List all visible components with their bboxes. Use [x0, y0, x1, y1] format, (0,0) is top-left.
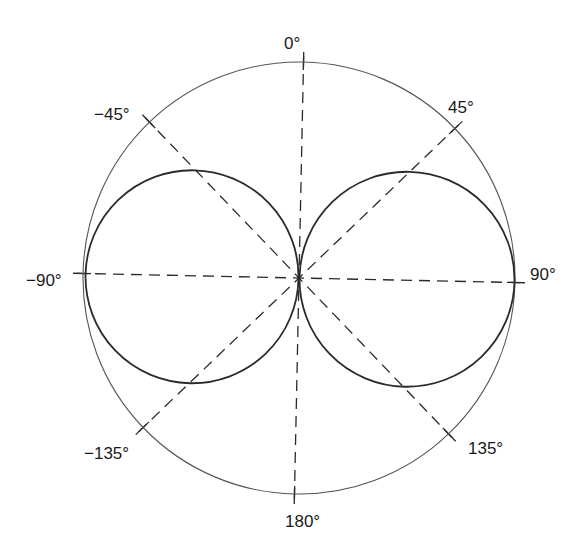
label-minus135: −135°	[84, 444, 129, 463]
left-lobe	[83, 168, 300, 385]
label-90: 90°	[530, 265, 556, 284]
label-minus45: −45°	[94, 105, 130, 124]
label-135: 135°	[468, 439, 503, 458]
label-0: 0°	[284, 34, 300, 53]
label-180: 180°	[285, 512, 320, 531]
label-minus90: −90°	[26, 271, 62, 290]
label-45: 45°	[448, 98, 474, 117]
polar-diagram: 0° 45° 90° 135° 180° −135° −90° −45°	[0, 0, 578, 540]
